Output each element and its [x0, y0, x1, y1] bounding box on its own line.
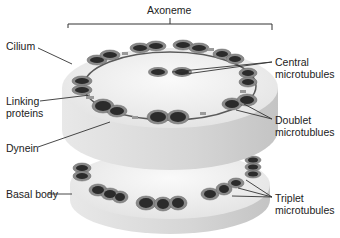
label-doublet-microtubules: Doublet microtublues — [275, 114, 337, 138]
cilium-diagram: Axoneme Cilium Linking proteins Dynein B… — [0, 0, 340, 238]
label-cilium: Cilium — [6, 40, 35, 52]
label-basal-body: Basal body — [6, 188, 58, 200]
label-axoneme: Axoneme — [147, 4, 191, 16]
axoneme-bracket — [68, 18, 272, 30]
label-central-microtubules: Central microtubules — [275, 56, 337, 80]
label-linking-proteins: Linking proteins — [6, 95, 46, 119]
label-triplet-microtubules: Triplet microtubules — [275, 192, 337, 216]
label-dynein: Dynein — [6, 142, 39, 154]
